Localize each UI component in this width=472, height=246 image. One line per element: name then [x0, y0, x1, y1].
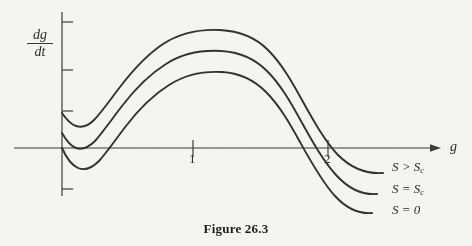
- x-axis-label: g: [450, 140, 457, 154]
- figure-26-3: dg dt g 1 2 S > Sc S = Sc S = 0 Figure 2…: [0, 0, 472, 246]
- x-tick-label-2: 2: [324, 152, 331, 165]
- legend-label-s-equals-zero: S = 0: [392, 203, 420, 216]
- y-axis-label: dg dt: [25, 28, 55, 59]
- legend-label-s-equals-sc: S = Sc: [392, 182, 424, 195]
- legend-label-s-greater-sc: S > Sc: [392, 160, 424, 173]
- legend-label-text: S = 0: [392, 202, 420, 217]
- legend-label-text: S = S: [392, 181, 420, 196]
- legend-label-subscript: c: [420, 166, 424, 175]
- curve-s-equals-zero: [62, 72, 372, 213]
- y-axis-label-denominator: dt: [25, 45, 55, 59]
- legend-label-subscript: c: [420, 188, 424, 197]
- figure-caption: Figure 26.3: [0, 222, 472, 235]
- y-axis-label-numerator: dg: [25, 28, 55, 42]
- x-tick-label-1: 1: [189, 152, 196, 165]
- legend-label-text: S > S: [392, 159, 420, 174]
